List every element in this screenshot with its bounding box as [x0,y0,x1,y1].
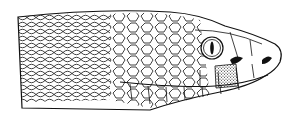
snake-drawing [0,0,299,124]
stippled-patch [215,64,238,88]
snake-head-illustration: Snake head illustration [0,0,299,124]
eye-icon [201,37,223,59]
